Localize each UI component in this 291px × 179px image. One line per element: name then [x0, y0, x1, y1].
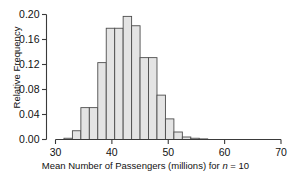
histogram-bar: [132, 26, 140, 140]
y-tick-label: 0.20: [19, 8, 40, 20]
x-axis-label-prefix: Mean Number of Passengers (millions) for: [42, 160, 223, 171]
y-tick-label: 0.12: [19, 58, 40, 70]
x-axis-label: Mean Number of Passengers (millions) for…: [0, 160, 291, 171]
histogram-bar: [81, 108, 89, 140]
histogram-plot: 3040506070 0.000.040.080.120.160.20: [0, 0, 291, 179]
histogram-figure: 3040506070 0.000.040.080.120.160.20 Rela…: [0, 0, 291, 179]
histogram-bar: [115, 28, 123, 139]
x-tick-label: 50: [162, 146, 174, 158]
y-tick-label: 0.08: [19, 83, 40, 95]
histogram-bar: [106, 28, 114, 139]
y-tick-label: 0.16: [19, 33, 40, 45]
histogram-bar: [165, 119, 173, 140]
histogram-bar: [140, 58, 148, 140]
histogram-bar: [123, 16, 131, 139]
x-tick-label: 60: [219, 146, 231, 158]
histogram-bar: [149, 58, 157, 140]
y-tick-label: 0.04: [19, 108, 40, 120]
histogram-bar: [174, 132, 182, 140]
x-tick-label: 70: [275, 146, 287, 158]
bars-layer: [64, 16, 208, 139]
x-tick-label: 40: [106, 146, 118, 158]
histogram-bar: [98, 63, 106, 140]
histogram-bar: [89, 108, 97, 140]
histogram-bar: [157, 95, 165, 139]
y-tick-label: 0.00: [19, 133, 40, 145]
y-tick-labels: 0.000.040.080.120.160.20: [19, 8, 40, 145]
x-axis-label-suffix: = 10: [228, 160, 249, 171]
y-axis-label: Relative Frequency: [11, 8, 22, 128]
x-tick-label: 30: [50, 146, 62, 158]
x-tick-labels: 3040506070: [50, 146, 287, 158]
histogram-bar: [72, 131, 80, 140]
